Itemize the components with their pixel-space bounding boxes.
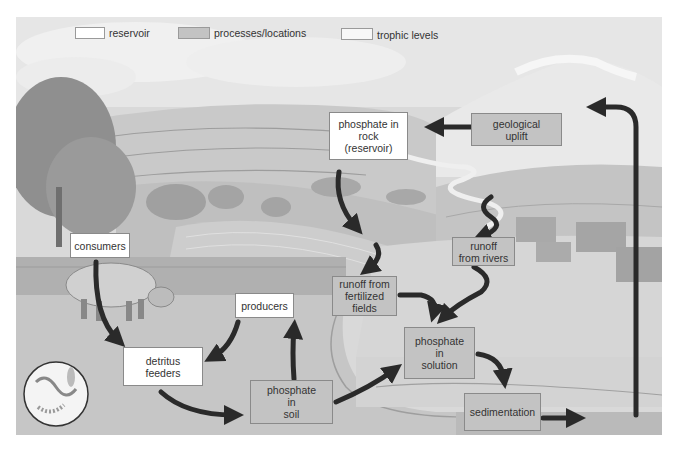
- node-text: detritus: [146, 355, 180, 367]
- node-text: in: [287, 396, 295, 408]
- landscape-background: [16, 17, 662, 435]
- node-text: uplift: [505, 130, 527, 142]
- node-text: sedimentation: [470, 406, 535, 418]
- node-producers: producers: [235, 293, 294, 318]
- node-text: phosphate: [267, 384, 316, 396]
- node-text: producers: [241, 300, 288, 312]
- node-text: soil: [284, 408, 300, 420]
- node-text: (reservoir): [345, 142, 393, 154]
- node-text: consumers: [74, 240, 125, 252]
- node-phosphate-in-soil: phosphate in soil: [250, 380, 333, 424]
- legend-label-trophic: trophic levels: [377, 29, 438, 41]
- legend-swatch-trophic: [341, 28, 373, 40]
- node-text: fields: [352, 302, 377, 314]
- node-geological-uplift: geological uplift: [471, 113, 562, 146]
- legend-label-reservoir: reservoir: [109, 27, 150, 39]
- node-text: feeders: [145, 367, 180, 379]
- node-text: solution: [421, 359, 457, 371]
- node-runoff-from-fertilized-fields: runoff from fertilized fields: [332, 276, 397, 316]
- legend-swatch-reservoir: [75, 27, 105, 39]
- node-text: runoff: [470, 240, 497, 252]
- node-text: in: [435, 347, 443, 359]
- node-text: phosphate in: [338, 118, 398, 130]
- node-sedimentation: sedimentation: [464, 393, 541, 431]
- phosphorus-cycle-illustration: reservoir processes/locations trophic le…: [16, 17, 662, 435]
- node-text: rock: [359, 130, 379, 142]
- legend-swatch-processes: [178, 27, 210, 39]
- node-runoff-from-rivers: runoff from rivers: [452, 237, 515, 266]
- node-text: from rivers: [459, 252, 509, 264]
- node-consumers: consumers: [70, 233, 130, 258]
- node-text: runoff from: [339, 278, 390, 290]
- node-text: fertilized: [345, 290, 384, 302]
- node-detritus-feeders: detritus feeders: [123, 347, 203, 386]
- node-text: phosphate: [415, 335, 464, 347]
- legend-label-processes: processes/locations: [214, 27, 306, 39]
- node-text: geological: [493, 118, 540, 130]
- node-phosphate-in-rock: phosphate in rock (reservoir): [329, 112, 408, 160]
- node-phosphate-in-solution: phosphate in solution: [404, 327, 475, 379]
